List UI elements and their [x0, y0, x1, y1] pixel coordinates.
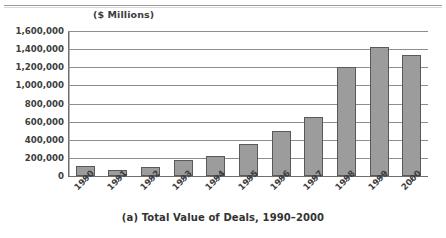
chart-figure: ($ Millions) 0200,000400,000600,000800,0… — [0, 0, 446, 238]
y-axis-tick-label: 1,000,000 — [16, 80, 64, 90]
bar — [272, 131, 291, 176]
y-axis-tick-label: 1,200,000 — [16, 62, 64, 72]
bars-group — [69, 31, 428, 176]
y-axis-tick-label: 600,000 — [25, 117, 64, 127]
bar — [337, 67, 356, 176]
bar — [370, 47, 389, 176]
y-axis-tick-label: 0 — [58, 171, 64, 181]
y-axis-tick-label: 200,000 — [25, 153, 64, 163]
y-axis-tick-label: 1,400,000 — [16, 44, 64, 54]
figure-caption: (a) Total Value of Deals, 1990–2000 — [0, 212, 446, 223]
bar — [304, 117, 323, 176]
y-axis-tick-label: 400,000 — [25, 135, 64, 145]
top-divider-rule — [4, 5, 442, 6]
plot-area: 0200,000400,000600,000800,0001,000,0001,… — [68, 31, 428, 176]
y-axis-tick-label: 800,000 — [25, 99, 64, 109]
bar — [402, 55, 421, 176]
y-axis-tick-label: 1,600,000 — [16, 26, 64, 36]
y-axis-unit-label: ($ Millions) — [93, 9, 154, 20]
top-divider-rule-shadow — [4, 7, 442, 8]
